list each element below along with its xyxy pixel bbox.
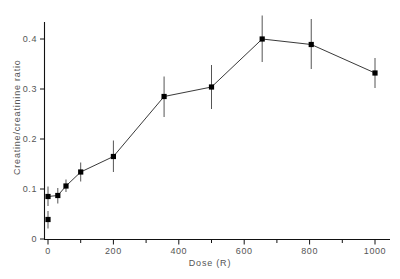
data-point — [260, 36, 265, 41]
data-point — [78, 169, 83, 174]
x-tick-label: 200 — [105, 246, 122, 256]
data-point — [372, 70, 377, 75]
y-axis: 00.10.20.30.4 Creatine/creatinine ratio — [12, 22, 45, 244]
y-tick-label: 0.2 — [23, 134, 37, 144]
data-point — [161, 94, 166, 99]
x-tick-label: 600 — [236, 246, 253, 256]
error-bars — [48, 16, 375, 229]
data-markers — [45, 36, 377, 222]
y-axis-ticks — [40, 39, 45, 239]
x-tick-label: 400 — [170, 246, 187, 256]
data-point — [45, 194, 50, 199]
data-point — [45, 217, 50, 222]
y-tick-label: 0.3 — [23, 84, 37, 94]
x-tick-label: 1000 — [364, 246, 386, 256]
y-tick-label: 0.1 — [23, 184, 37, 194]
data-point — [309, 42, 314, 47]
data-point — [209, 84, 214, 89]
series-polyline — [48, 39, 375, 197]
x-tick-label: 0 — [45, 246, 51, 256]
data-point — [63, 183, 68, 188]
x-axis-tick-labels: 02004006008001000 — [45, 246, 386, 256]
chart-canvas: 00.10.20.30.4 Creatine/creatinine ratio … — [0, 0, 400, 279]
data-point — [55, 193, 60, 198]
y-axis-title: Creatine/creatinine ratio — [12, 59, 22, 175]
x-axis: 02004006008001000 Dose (R) — [44, 240, 390, 269]
series-line — [48, 39, 375, 197]
y-tick-label: 0.4 — [23, 34, 37, 44]
data-point — [111, 154, 116, 159]
chart-figure: 00.10.20.30.4 Creatine/creatinine ratio … — [0, 0, 400, 279]
x-axis-ticks — [48, 240, 375, 245]
x-tick-label: 800 — [301, 246, 318, 256]
y-axis-tick-labels: 00.10.20.30.4 — [23, 34, 37, 244]
x-axis-title: Dose (R) — [189, 258, 231, 268]
y-tick-label: 0 — [31, 234, 37, 244]
